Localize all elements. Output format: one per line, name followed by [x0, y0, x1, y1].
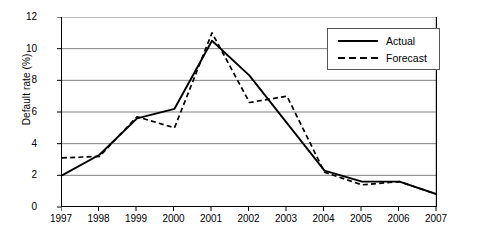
y-tick-label: 10 — [13, 44, 37, 54]
legend: Actual Forecast — [327, 28, 440, 70]
legend-label-actual: Actual — [386, 35, 415, 47]
y-tick-label: 4 — [13, 139, 37, 149]
legend-item-forecast: Forecast — [328, 49, 441, 66]
x-tick-label: 2004 — [304, 214, 344, 224]
x-tick-label: 2000 — [154, 214, 194, 224]
y-axis-ticks — [57, 17, 63, 209]
y-tick-label: 8 — [13, 75, 37, 85]
legend-key-solid-line-icon — [336, 35, 380, 47]
x-tick-label: 2005 — [341, 214, 381, 224]
legend-item-actual: Actual — [328, 32, 441, 49]
y-tick-label: 2 — [13, 170, 37, 180]
y-tick-label: 12 — [13, 12, 37, 22]
x-tick-label: 2006 — [379, 214, 419, 224]
legend-label-forecast: Forecast — [386, 52, 427, 64]
y-tick-label: 6 — [13, 107, 37, 117]
x-tick-label: 2001 — [191, 214, 231, 224]
x-tick-label: 2003 — [266, 214, 306, 224]
x-tick-label: 2002 — [229, 214, 269, 224]
x-tick-label: 1997 — [41, 214, 81, 224]
y-tick-label: 0 — [13, 202, 37, 212]
x-axis-ticks — [61, 207, 440, 215]
x-tick-label: 1999 — [116, 214, 156, 224]
default-rate-line-chart: Default rate (%) 024681012 1997199819992… — [0, 0, 480, 249]
x-tick-label: 2007 — [416, 214, 456, 224]
x-tick-label: 1998 — [79, 214, 119, 224]
legend-key-dashed-line-icon — [336, 52, 380, 64]
